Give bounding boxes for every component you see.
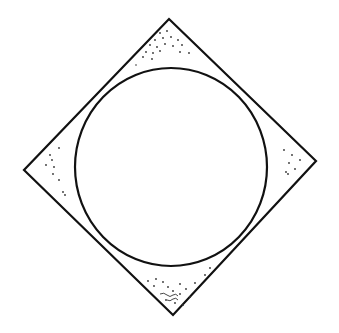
inscribed-circle [75, 68, 267, 266]
figure-canvas [0, 0, 339, 333]
stipple-dots [45, 30, 301, 306]
diamond-shape [24, 19, 316, 315]
